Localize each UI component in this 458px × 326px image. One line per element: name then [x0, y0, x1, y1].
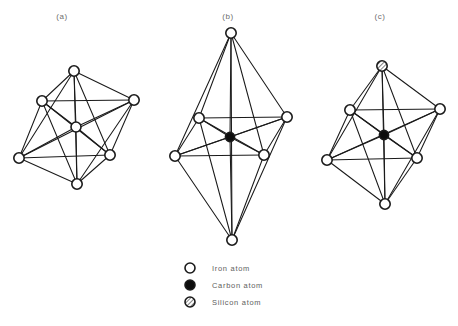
panel-label-a: (a): [42, 12, 82, 21]
legend-item-iron-atom: Iron atom: [185, 263, 250, 273]
silicon-atom-c-top: [377, 61, 387, 71]
iron-atom-c-upper-left: [345, 105, 355, 115]
iron-atom-c-upper-right: [435, 104, 445, 114]
iron-atom-a-bottom: [72, 179, 82, 189]
legend-label: Silicon atom: [212, 298, 261, 307]
legend-item-silicon-atom: Silicon atom: [185, 297, 261, 307]
iron-atom-b-upper-right: [282, 112, 292, 122]
atomic-cluster-diagram: Iron atomCarbon atomSilicon atom: [0, 0, 458, 326]
carbon-atom-b-center: [225, 132, 234, 141]
iron-atom-a-lower-left: [14, 153, 24, 163]
iron-atom-a-center: [71, 122, 81, 132]
iron-atom-c-lower-right: [412, 153, 422, 163]
iron-atom-c-lower-left: [322, 155, 332, 165]
carbon-atom-icon: [185, 280, 195, 290]
iron-atom-a-top: [69, 66, 79, 76]
iron-atom-b-top: [226, 28, 236, 38]
iron-atom-b-bottom: [227, 235, 237, 245]
panel-c: [322, 61, 445, 209]
iron-atom-b-lower-left: [170, 151, 180, 161]
figure-area: Iron atomCarbon atomSilicon atom: [0, 0, 458, 326]
legend-label: Iron atom: [212, 264, 250, 273]
iron-atom-icon: [185, 263, 195, 273]
panel-a: [14, 66, 139, 189]
panel-c-atoms: [322, 61, 445, 209]
panel-label-c: (c): [360, 12, 400, 21]
panel-label-b: (b): [208, 12, 248, 21]
iron-atom-b-upper-left: [194, 113, 204, 123]
iron-atom-a-upper-right: [129, 95, 139, 105]
iron-atom-a-upper-left: [37, 96, 47, 106]
legend-label: Carbon atom: [212, 281, 263, 290]
iron-atom-a-lower-right: [105, 150, 115, 160]
panels-layer: [14, 28, 445, 245]
panel-b: [170, 28, 292, 245]
iron-atom-c-bottom: [380, 199, 390, 209]
carbon-atom-c-center: [379, 130, 388, 139]
legend-layer: Iron atomCarbon atomSilicon atom: [185, 263, 263, 307]
legend-item-carbon-atom: Carbon atom: [185, 280, 263, 290]
silicon-atom-icon: [185, 297, 195, 307]
iron-atom-b-lower-right: [259, 150, 269, 160]
